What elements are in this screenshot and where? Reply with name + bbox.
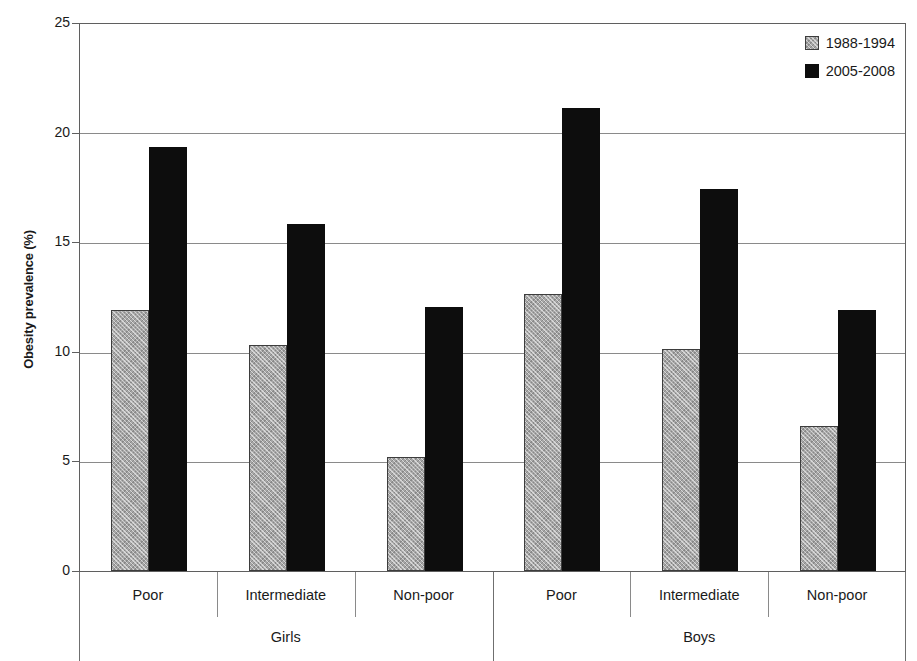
bar-boys-non-poor-1988-1994 [800,426,838,571]
legend-label-2005-2008: 2005-2008 [826,63,895,79]
x-axis-category-separator [768,572,769,617]
bar-girls-poor-2005-2008 [149,147,187,571]
bar-girls-intermediate-2005-2008 [287,224,325,571]
bar-boys-poor-2005-2008 [562,108,600,571]
x-axis-group-separator [79,572,80,661]
bar-boys-intermediate-2005-2008 [700,189,738,571]
legend-item-2005-2008: 2005-2008 [805,63,895,79]
bar-boys-non-poor-2005-2008 [838,310,876,571]
y-tick-label-15: 15 [14,233,70,249]
bar-girls-intermediate-1988-1994 [249,345,287,571]
x-axis-category-label: Non-poor [768,572,906,617]
chart-legend: 1988-1994 2005-2008 [805,35,895,79]
y-tick-label-20: 20 [14,124,70,140]
y-tick-label-25: 25 [14,14,70,30]
x-axis-category-label: Poor [79,572,217,617]
legend-label-1988-1994: 1988-1994 [826,35,895,51]
x-axis-group-separator [493,572,494,661]
x-axis-category-separator [630,572,631,617]
y-axis-title: Obesity prevalence (%) [21,180,36,420]
bar-girls-non-poor-2005-2008 [425,307,463,571]
x-axis-category-label: Intermediate [630,572,768,617]
hatched-gray-swatch-icon [805,36,819,50]
x-axis-category-label: Poor [493,572,631,617]
bar-girls-poor-1988-1994 [111,310,149,571]
bar-boys-intermediate-1988-1994 [662,349,700,571]
x-axis-category-label: Non-poor [355,572,493,617]
legend-item-1988-1994: 1988-1994 [805,35,895,51]
plot-area [79,23,906,572]
bar-series-container [80,24,905,571]
y-tick-label-5: 5 [14,452,70,468]
chart-figure: Obesity prevalence (%) 25 20 15 10 5 0 1… [0,0,917,661]
x-axis: PoorIntermediateNon-poorPoorIntermediate… [79,572,906,661]
x-axis-category-separator [355,572,356,617]
x-axis-group-label: Girls [79,617,493,657]
bar-girls-non-poor-1988-1994 [387,457,425,571]
x-axis-category-label: Intermediate [217,572,355,617]
y-tick-label-0: 0 [14,562,70,578]
bar-boys-poor-1988-1994 [524,294,562,571]
x-axis-category-separator [217,572,218,617]
x-axis-group-label: Boys [493,617,907,657]
x-axis-group-separator [905,572,906,661]
solid-black-swatch-icon [805,64,819,78]
y-tick-label-10: 10 [14,343,70,359]
